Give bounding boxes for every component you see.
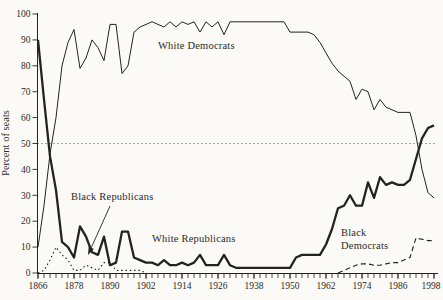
tick-label: 10 [21, 242, 31, 252]
tick-label: 100 [16, 9, 31, 19]
tick-label: 90 [21, 35, 31, 45]
y-axis-title: Percent of seats [0, 103, 14, 183]
tick-label: 20 [21, 216, 31, 226]
white-republicans-label: White Republicans [152, 233, 236, 244]
tick-label: 1902 [137, 281, 156, 291]
tick-label: 70 [21, 87, 31, 97]
tick-label: 1890 [101, 281, 120, 291]
white-democrats-line [38, 22, 434, 247]
tick-label: 1950 [281, 281, 300, 291]
tick-label: 1974 [353, 281, 372, 291]
tick-label: 1986 [389, 281, 408, 291]
tick-label: 1998 [422, 281, 441, 291]
tick-label: 50 [21, 139, 31, 149]
black-democrats-label-line1: Black [341, 227, 388, 240]
tick-label: 60 [21, 113, 31, 123]
white-democrats-label: White Democrats [158, 40, 235, 51]
tick-label: 80 [21, 61, 31, 71]
tick-label: 1914 [173, 281, 192, 291]
black-democrats-label: Black Democrats [341, 227, 388, 252]
black-republicans-label: Black Republicans [71, 191, 153, 202]
black-democrats-label-line2: Democrats [341, 240, 388, 253]
black-republicans-arrow [91, 206, 110, 248]
tick-label: 1962 [317, 281, 336, 291]
tick-label: 1938 [245, 281, 264, 291]
seats-by-party-race-figure: 0102030405060708090100186618781890190219… [0, 0, 443, 300]
tick-label: 1866 [29, 281, 48, 291]
tick-label: 0 [26, 268, 31, 278]
tick-label: 40 [21, 165, 31, 175]
tick-label: 30 [21, 191, 31, 201]
tick-label: 1926 [209, 281, 228, 291]
tick-label: 1878 [65, 281, 84, 291]
